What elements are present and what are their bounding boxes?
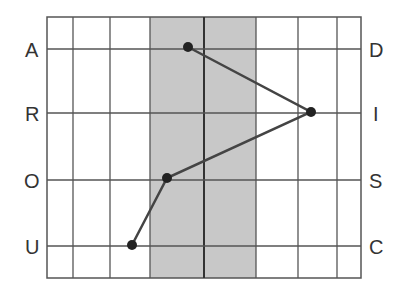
right-label-3: C (369, 236, 383, 258)
letter-grid-diagram: A R O U D I S C (0, 0, 398, 290)
right-label-1: I (373, 103, 379, 125)
right-label-2: S (369, 170, 382, 192)
right-label-0: D (369, 39, 383, 61)
left-label-2: O (24, 170, 40, 192)
point-u (127, 240, 137, 250)
left-label-3: U (25, 236, 39, 258)
point-a (183, 42, 193, 52)
left-label-0: A (25, 39, 39, 61)
point-i (306, 107, 316, 117)
point-o (162, 173, 172, 183)
left-label-1: R (25, 103, 39, 125)
